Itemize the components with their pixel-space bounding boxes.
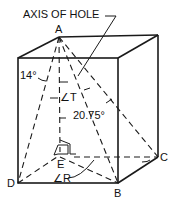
right-angle-marker <box>54 140 76 155</box>
angle-C-mark <box>142 160 150 162</box>
top-right-edge <box>118 35 158 58</box>
angle-2075-label: 20.75° <box>73 109 105 121</box>
angle-R-label: ∠R <box>53 172 71 184</box>
point-C-label: C <box>160 151 168 163</box>
hole-axis-diagram: AXIS OF HOLE A B C D E 14° ∠T 20.75° ∠R <box>0 0 172 208</box>
point-A-label: A <box>55 23 63 35</box>
line-A-D <box>18 37 59 183</box>
angle-14-leader <box>38 78 46 81</box>
angle-T-label: ∠T <box>60 91 77 103</box>
bottom-right-edge <box>118 157 158 183</box>
angle-T-arrow3 <box>84 88 90 90</box>
top-back-edge <box>59 35 158 37</box>
point-D-label: D <box>7 177 15 189</box>
point-B-label: B <box>114 187 121 199</box>
point-E-label: E <box>57 158 64 170</box>
top-left-edge <box>18 37 59 58</box>
line-D-E <box>18 157 57 183</box>
axis-of-hole-label: AXIS OF HOLE <box>23 8 99 20</box>
angle-14-label: 14° <box>20 69 37 81</box>
axis-leader <box>78 16 116 76</box>
